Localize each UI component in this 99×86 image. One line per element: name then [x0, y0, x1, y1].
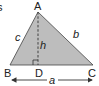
side-label-a: a: [49, 74, 55, 86]
vertex-label-b: B: [4, 67, 11, 79]
side-label-b: b: [73, 28, 79, 40]
clipped-label: s: [0, 1, 3, 13]
vertex-label-d: D: [35, 67, 43, 79]
triangle-diagram: s A B D C c h b a: [0, 0, 99, 86]
triangle-abc: [10, 12, 93, 65]
vertex-label-a: A: [34, 0, 42, 12]
altitude-label-h: h: [40, 39, 46, 51]
side-label-c: c: [15, 31, 21, 43]
vertex-label-c: C: [88, 67, 96, 79]
